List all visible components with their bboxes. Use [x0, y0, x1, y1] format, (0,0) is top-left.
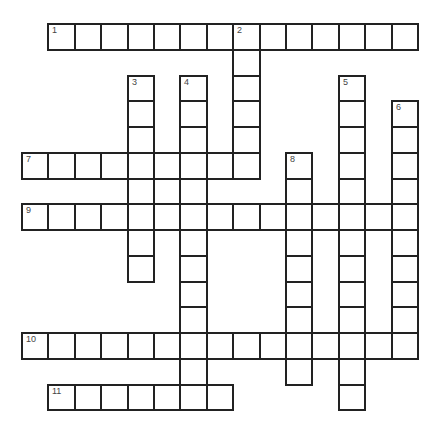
crossword-cell[interactable] [338, 332, 366, 360]
crossword-cell[interactable] [74, 152, 102, 180]
crossword-cell[interactable] [179, 203, 208, 231]
crossword-cell[interactable]: 8 [285, 152, 313, 180]
crossword-cell[interactable] [364, 332, 393, 360]
crossword-cell[interactable] [285, 178, 313, 205]
crossword-cell[interactable] [179, 332, 208, 360]
crossword-cell[interactable] [391, 203, 419, 231]
crossword-cell[interactable] [391, 126, 419, 154]
crossword-cell[interactable]: 2 [232, 23, 261, 51]
crossword-cell[interactable] [338, 281, 366, 308]
crossword-cell[interactable]: 10 [21, 332, 49, 360]
crossword-cell[interactable] [232, 332, 261, 360]
crossword-cell[interactable] [47, 332, 76, 360]
crossword-cell[interactable] [153, 384, 181, 411]
crossword-cell[interactable] [153, 203, 181, 231]
crossword-cell[interactable] [232, 203, 261, 231]
crossword-cell[interactable] [153, 332, 181, 360]
crossword-cell[interactable] [100, 152, 129, 180]
crossword-cell[interactable] [179, 178, 208, 205]
crossword-cell[interactable]: 6 [391, 100, 419, 128]
crossword-cell[interactable] [232, 126, 261, 154]
crossword-cell[interactable] [311, 203, 340, 231]
crossword-cell[interactable] [100, 384, 129, 411]
crossword-cell[interactable] [338, 229, 366, 257]
crossword-cell[interactable] [285, 358, 313, 386]
crossword-cell[interactable] [338, 100, 366, 128]
crossword-cell[interactable] [232, 75, 261, 102]
crossword-cell[interactable] [127, 384, 155, 411]
crossword-cell[interactable] [391, 152, 419, 180]
crossword-cell[interactable] [338, 384, 366, 411]
crossword-cell[interactable] [391, 229, 419, 257]
crossword-cell[interactable] [100, 23, 129, 51]
crossword-cell[interactable] [179, 384, 208, 411]
crossword-cell[interactable] [391, 306, 419, 334]
crossword-cell[interactable] [127, 126, 155, 154]
crossword-cell[interactable]: 4 [179, 75, 208, 102]
crossword-cell[interactable] [311, 332, 340, 360]
crossword-cell[interactable] [47, 152, 76, 180]
crossword-cell[interactable] [179, 126, 208, 154]
crossword-cell[interactable] [338, 23, 366, 51]
crossword-cell[interactable] [179, 100, 208, 128]
crossword-cell[interactable] [391, 332, 419, 360]
crossword-cell[interactable] [338, 358, 366, 386]
crossword-cell[interactable] [74, 23, 102, 51]
crossword-cell[interactable] [338, 178, 366, 205]
crossword-cell[interactable] [179, 255, 208, 283]
crossword-cell[interactable] [127, 178, 155, 205]
crossword-cell[interactable]: 1 [47, 23, 76, 51]
crossword-cell[interactable] [338, 306, 366, 334]
crossword-cell[interactable] [127, 203, 155, 231]
crossword-cell[interactable] [127, 23, 155, 51]
crossword-cell[interactable] [206, 384, 234, 411]
crossword-cell[interactable] [179, 152, 208, 180]
crossword-cell[interactable] [74, 384, 102, 411]
crossword-cell[interactable]: 7 [21, 152, 49, 180]
crossword-cell[interactable] [285, 332, 313, 360]
crossword-cell[interactable] [232, 100, 261, 128]
crossword-cell[interactable] [259, 23, 287, 51]
crossword-cell[interactable] [153, 152, 181, 180]
crossword-cell[interactable] [179, 358, 208, 386]
crossword-cell[interactable] [179, 23, 208, 51]
crossword-cell[interactable] [179, 306, 208, 334]
crossword-cell[interactable] [311, 23, 340, 51]
crossword-cell[interactable] [127, 152, 155, 180]
crossword-cell[interactable] [179, 229, 208, 257]
crossword-cell[interactable] [100, 332, 129, 360]
crossword-cell[interactable] [285, 306, 313, 334]
crossword-cell[interactable] [338, 152, 366, 180]
crossword-cell[interactable] [285, 255, 313, 283]
crossword-cell[interactable] [364, 203, 393, 231]
crossword-cell[interactable] [74, 203, 102, 231]
crossword-cell[interactable] [206, 332, 234, 360]
crossword-cell[interactable] [259, 332, 287, 360]
crossword-cell[interactable] [391, 23, 419, 51]
crossword-cell[interactable] [206, 23, 234, 51]
crossword-cell[interactable] [338, 255, 366, 283]
crossword-cell[interactable] [47, 203, 76, 231]
crossword-cell[interactable] [338, 126, 366, 154]
crossword-cell[interactable] [391, 255, 419, 283]
crossword-cell[interactable] [179, 281, 208, 308]
crossword-cell[interactable] [127, 332, 155, 360]
crossword-cell[interactable] [100, 203, 129, 231]
crossword-cell[interactable]: 5 [338, 75, 366, 102]
crossword-cell[interactable] [127, 100, 155, 128]
crossword-cell[interactable] [364, 23, 393, 51]
crossword-cell[interactable]: 9 [21, 203, 49, 231]
crossword-cell[interactable]: 11 [47, 384, 76, 411]
crossword-cell[interactable] [127, 229, 155, 257]
crossword-cell[interactable] [127, 255, 155, 283]
crossword-cell[interactable] [206, 203, 234, 231]
crossword-cell[interactable] [285, 203, 313, 231]
crossword-cell[interactable] [391, 178, 419, 205]
crossword-cell[interactable] [259, 203, 287, 231]
crossword-cell[interactable] [206, 152, 234, 180]
crossword-cell[interactable] [74, 332, 102, 360]
crossword-cell[interactable] [391, 281, 419, 308]
crossword-cell[interactable] [338, 203, 366, 231]
crossword-cell[interactable]: 3 [127, 75, 155, 102]
crossword-cell[interactable] [285, 281, 313, 308]
